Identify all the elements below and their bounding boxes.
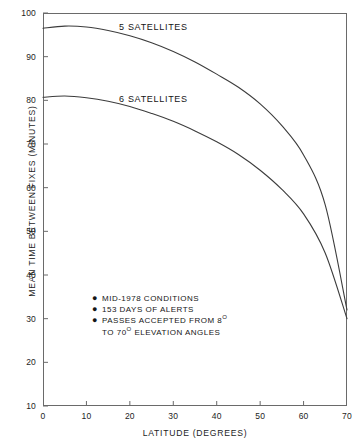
series-label-6-satellites: 6 SATELLITES bbox=[119, 94, 188, 104]
y-tick-label: 10 bbox=[10, 401, 36, 411]
annotation-text: 153 DAYS OF ALERTS bbox=[102, 304, 194, 315]
x-tick-label: 30 bbox=[161, 411, 185, 421]
x-tick-label: 20 bbox=[118, 411, 142, 421]
annotation-item: ●MID-1978 CONDITIONS bbox=[92, 293, 227, 304]
x-tick-label: 10 bbox=[74, 411, 98, 421]
x-tick-label: 40 bbox=[205, 411, 229, 421]
chart-figure: 102030405060708090100 010203040506070 ME… bbox=[0, 0, 359, 448]
bullet-icon: ● bbox=[92, 315, 102, 326]
y-axis-title: MEAN TIME BETWEEN FIXES (MINUTES) bbox=[27, 81, 37, 321]
y-tick-label: 100 bbox=[10, 8, 36, 18]
degree-symbol: O bbox=[222, 315, 227, 321]
y-tick-label: 90 bbox=[10, 52, 36, 62]
x-tick-label: 0 bbox=[31, 411, 55, 421]
annotation-text: PASSES ACCEPTED FROM 8O bbox=[102, 315, 227, 326]
bullet-icon: ● bbox=[92, 304, 102, 315]
annotation-continuation: TO 70O ELEVATION ANGLES bbox=[92, 327, 227, 338]
degree-symbol: O bbox=[127, 326, 132, 332]
y-tick-label: 20 bbox=[10, 357, 36, 367]
series-label-5-satellites: 5 SATELLITES bbox=[119, 22, 188, 32]
plot-area bbox=[43, 13, 347, 406]
annotation-text: MID-1978 CONDITIONS bbox=[102, 293, 199, 304]
x-tick-label: 60 bbox=[292, 411, 316, 421]
x-tick-label: 70 bbox=[335, 411, 359, 421]
annotation-list: ●MID-1978 CONDITIONS●153 DAYS OF ALERTS●… bbox=[92, 293, 227, 338]
x-axis-title: LATITUDE (DEGREES) bbox=[43, 428, 347, 438]
annotation-item: ●PASSES ACCEPTED FROM 8O bbox=[92, 315, 227, 326]
bullet-icon: ● bbox=[92, 293, 102, 304]
x-tick-label: 50 bbox=[248, 411, 272, 421]
annotation-item: ●153 DAYS OF ALERTS bbox=[92, 304, 227, 315]
